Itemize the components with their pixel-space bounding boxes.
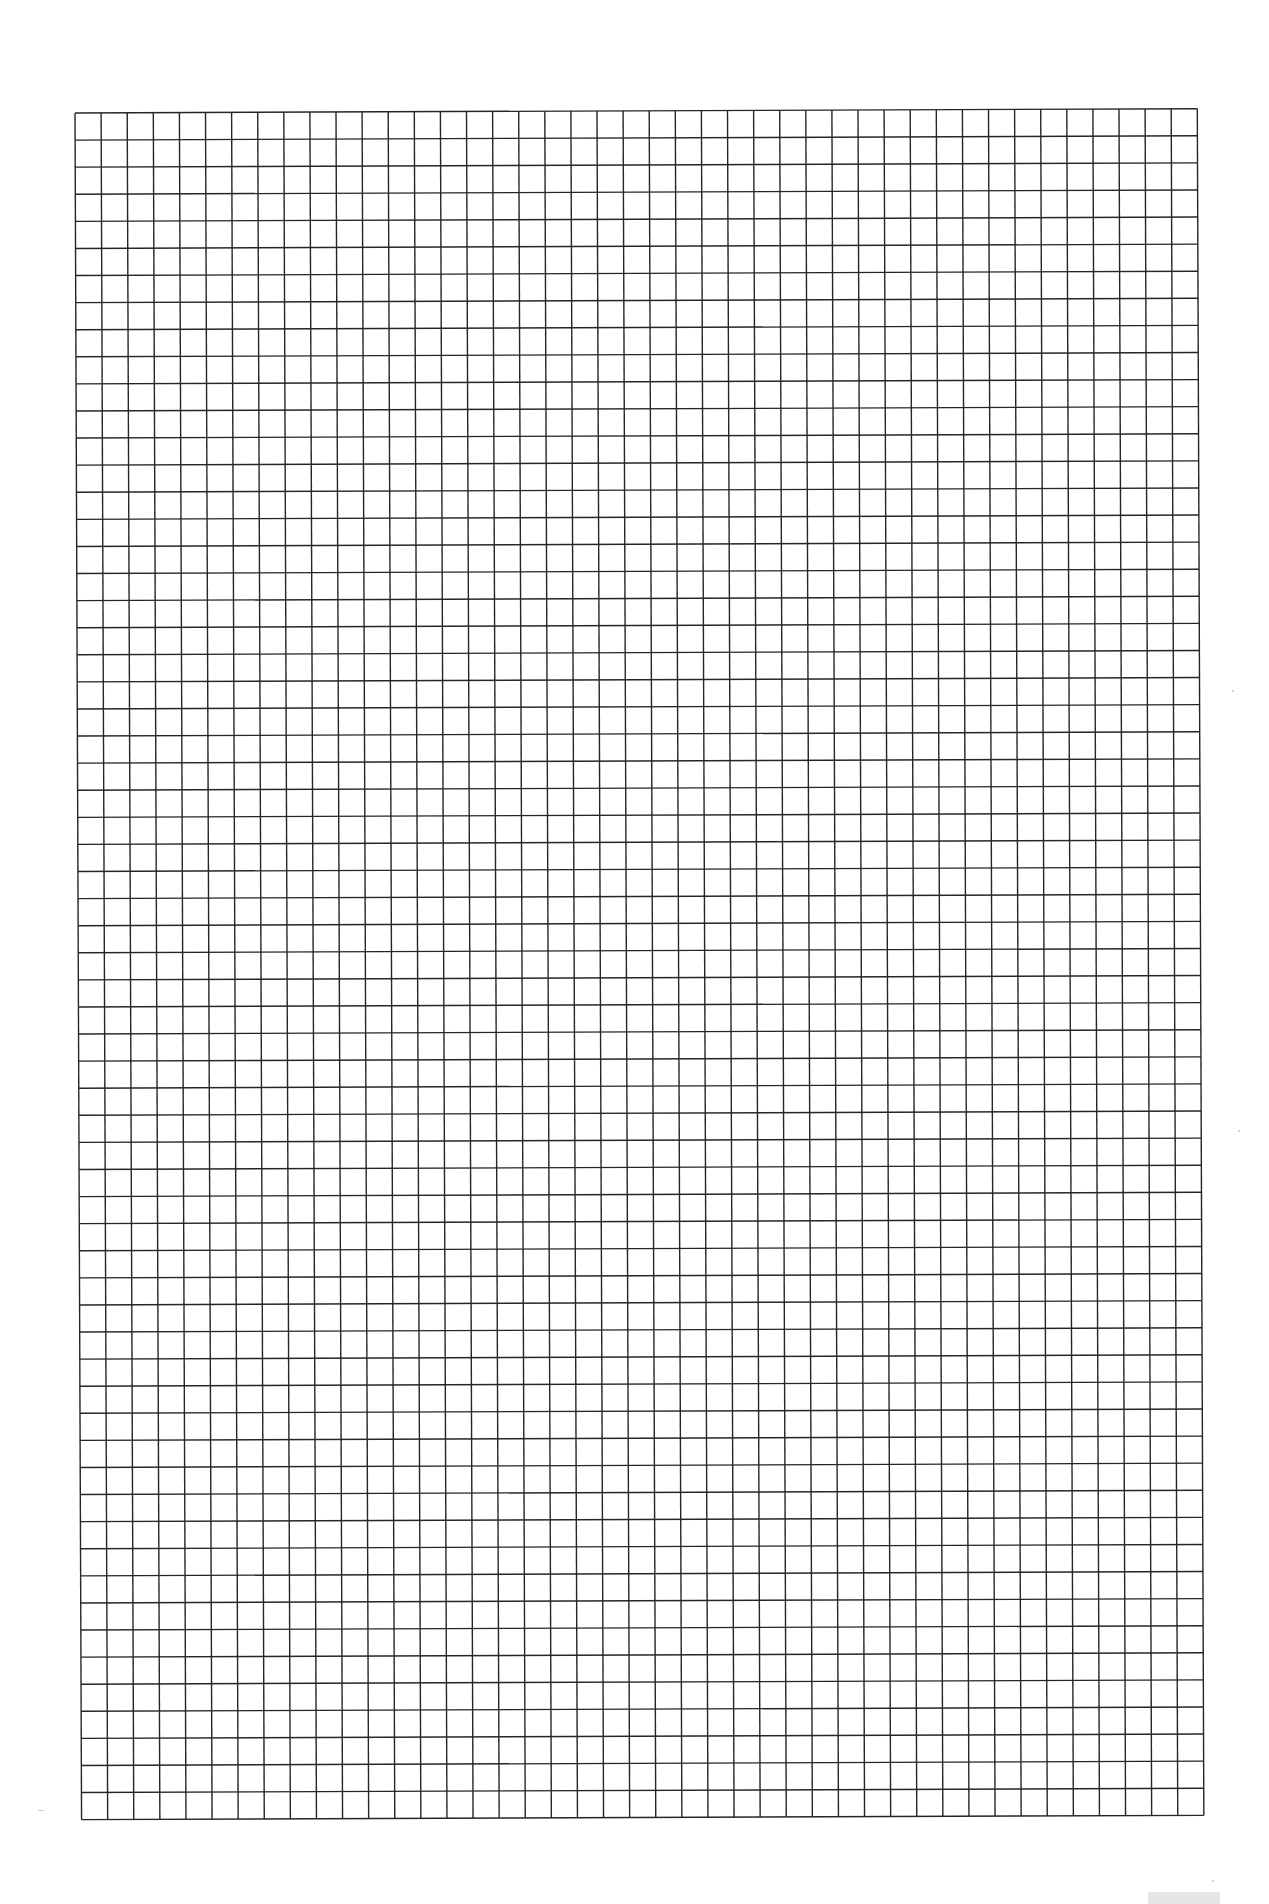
scan-speck bbox=[1238, 1130, 1240, 1132]
scan-speck bbox=[1212, 1880, 1214, 1882]
scan-speck bbox=[1232, 690, 1234, 692]
grid-container bbox=[73, 107, 1206, 1822]
scan-speck bbox=[38, 1810, 44, 1811]
page-number-area bbox=[1148, 1892, 1220, 1904]
graph-grid bbox=[73, 107, 1206, 1822]
